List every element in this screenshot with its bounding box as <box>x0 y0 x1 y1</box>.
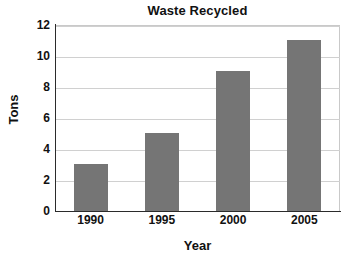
y-axis-tick-label: 12 <box>24 19 50 31</box>
y-axis-line <box>55 24 56 212</box>
bar-chart-figure: Waste Recycled Tons 024681012 1990199520… <box>0 0 349 262</box>
y-axis-tick-label: 10 <box>24 50 50 62</box>
y-axis-tick-label: 6 <box>24 112 50 124</box>
gridline <box>55 26 340 27</box>
y-axis-tick-label: 4 <box>24 143 50 155</box>
x-axis-tick-label: 2000 <box>198 213 269 227</box>
y-axis-tick-label: 2 <box>24 174 50 186</box>
x-axis-line <box>55 211 341 212</box>
y-axis-title: Tons <box>6 80 21 140</box>
x-axis-tick-label: 1990 <box>55 213 126 227</box>
bar <box>145 133 179 211</box>
x-axis-tick-label: 2005 <box>269 213 340 227</box>
bar <box>287 40 321 211</box>
y-axis-tick-labels: 024681012 <box>20 25 50 211</box>
chart-title: Waste Recycled <box>55 3 340 19</box>
x-axis-tick-label: 1995 <box>126 213 197 227</box>
y-axis-tick-label: 0 <box>24 205 50 217</box>
plot-area <box>55 25 340 211</box>
x-axis-title: Year <box>55 238 340 253</box>
bar <box>74 164 108 211</box>
bar <box>216 71 250 211</box>
y-axis-tick-label: 8 <box>24 81 50 93</box>
